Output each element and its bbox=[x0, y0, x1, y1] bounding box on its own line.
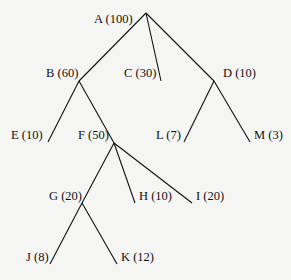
node-label-h: H (10) bbox=[139, 189, 172, 203]
node-label-g: G (20) bbox=[49, 189, 82, 203]
tree-edges bbox=[0, 0, 291, 280]
node-label-b: B (60) bbox=[46, 66, 78, 80]
node-label-e: E (10) bbox=[11, 128, 43, 142]
node-label-m: M (3) bbox=[254, 128, 283, 142]
node-label-c: C (30) bbox=[124, 66, 156, 80]
edge-f-g bbox=[82, 143, 114, 203]
edge-f-h bbox=[114, 143, 135, 203]
edge-g-k bbox=[82, 203, 117, 264]
node-label-f: F (50) bbox=[78, 128, 109, 142]
edge-b-e bbox=[48, 81, 79, 142]
tree-diagram: A (100)B (60)C (30)D (10)E (10)F (50)L (… bbox=[0, 0, 291, 280]
node-label-a: A (100) bbox=[94, 12, 133, 26]
node-label-d: D (10) bbox=[223, 66, 256, 80]
node-label-k: K (12) bbox=[121, 250, 154, 264]
node-label-i: I (20) bbox=[196, 189, 224, 203]
edge-d-m bbox=[214, 81, 250, 142]
node-label-l: L (7) bbox=[156, 128, 181, 142]
edge-d-l bbox=[184, 81, 214, 142]
node-label-j: J (8) bbox=[26, 250, 49, 264]
edge-g-j bbox=[50, 203, 82, 264]
